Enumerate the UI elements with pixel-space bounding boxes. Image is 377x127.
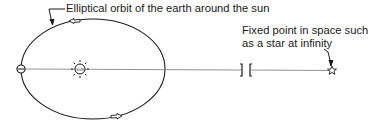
orbit-label: Elliptical orbit of the earth around the… [66,3,269,14]
orbit-label-leader-arrow [49,9,65,25]
orbit-direction-arrow-top [69,19,80,24]
fixed-point-label-line2: as a star at infinity [242,38,332,49]
orbit-direction-arrow-bottom [111,114,122,120]
orbit-diagram: SUN [0,0,377,127]
sight-line-segment-2 [251,70,329,71]
fixed-point-label-line1: Fixed point in space such [242,25,368,36]
earth-icon [17,65,25,73]
svg-text:SUN: SUN [76,68,84,72]
star-icon [328,66,337,74]
fixed-point-leader-arrow [324,49,333,66]
sight-line-segment-1 [25,69,241,70]
line-break-icon [240,64,252,76]
